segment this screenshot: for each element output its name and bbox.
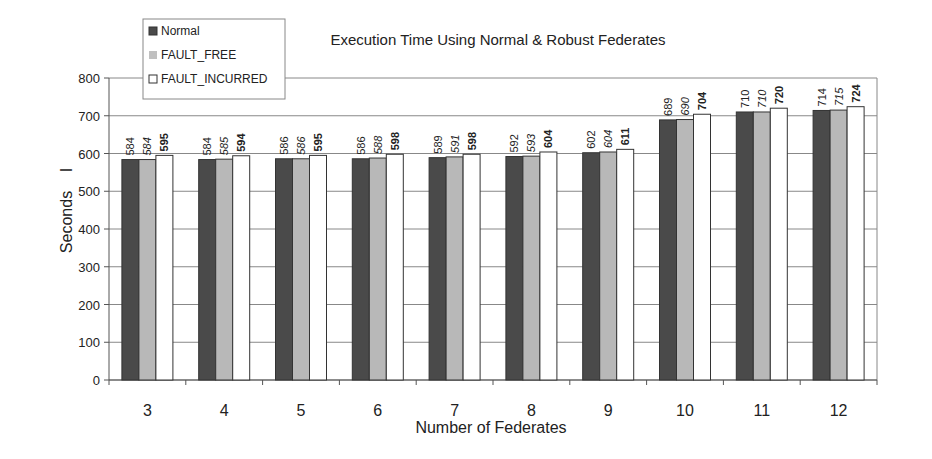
bar-fault-incurred xyxy=(233,156,250,380)
x-tick-label: 7 xyxy=(450,402,459,419)
value-label-fault-free: 584 xyxy=(141,137,153,155)
y-tick-label: 800 xyxy=(78,71,100,86)
bar-fault-free xyxy=(677,120,694,380)
white-square-icon xyxy=(149,75,157,83)
x-tick-label: 10 xyxy=(676,402,694,419)
value-label-fault-free: 710 xyxy=(756,89,768,108)
bar-chart: 5845845955845855945865865955865885985895… xyxy=(0,0,932,459)
bar-fault-free xyxy=(753,112,770,380)
bars xyxy=(122,107,864,380)
bar-fault-free xyxy=(830,110,847,380)
bar-normal xyxy=(199,160,216,380)
value-label-normal: 586 xyxy=(278,136,290,154)
x-axis-title: Number of Federates xyxy=(415,419,566,436)
chart-title: Execution Time Using Normal & Robust Fed… xyxy=(330,31,665,48)
y-tick-label: 100 xyxy=(78,335,100,350)
legend: NormalFAULT_FREEFAULT_INCURRED xyxy=(143,19,285,99)
y-tick-label: 700 xyxy=(78,109,100,124)
value-label-normal: 710 xyxy=(739,90,751,108)
value-label-fault-free: 593 xyxy=(525,133,537,152)
bar-fault-free xyxy=(216,159,233,380)
bar-normal xyxy=(583,153,600,380)
value-label-fault-incurred: 598 xyxy=(466,132,478,150)
bar-fault-incurred xyxy=(156,155,173,380)
value-label-fault-incurred: 604 xyxy=(542,129,554,148)
bar-fault-incurred xyxy=(540,152,557,380)
y-tick-label: 500 xyxy=(78,184,100,199)
value-label-normal: 602 xyxy=(585,130,597,148)
value-label-fault-free: 588 xyxy=(372,135,384,154)
bar-fault-incurred xyxy=(617,149,634,380)
bar-fault-incurred xyxy=(770,108,787,380)
bar-fault-incurred xyxy=(386,154,403,380)
legend-item-label: FAULT_INCURRED xyxy=(161,72,268,86)
value-label-normal: 584 xyxy=(124,137,136,155)
x-tick-labels: 3456789101112 xyxy=(143,402,848,419)
bar-normal xyxy=(276,159,293,380)
value-label-normal: 584 xyxy=(201,137,213,155)
legend-item-label: FAULT_FREE xyxy=(161,48,236,62)
value-label-fault-incurred: 595 xyxy=(158,133,170,151)
value-label-fault-free: 604 xyxy=(602,130,614,148)
bar-normal xyxy=(736,112,753,380)
y-tick-labels: 0100200300400500600700800 xyxy=(78,71,100,388)
x-tick-label: 3 xyxy=(143,402,152,419)
bar-normal xyxy=(122,160,139,380)
bar-fault-free xyxy=(446,157,463,380)
gray-square-icon xyxy=(149,51,157,59)
value-label-fault-incurred: 595 xyxy=(312,133,324,151)
bar-fault-free xyxy=(600,152,617,380)
y-axis-title-mark: I xyxy=(58,168,75,172)
bar-normal xyxy=(506,157,523,380)
x-tick-label: 12 xyxy=(830,402,848,419)
value-label-fault-incurred: 611 xyxy=(619,128,631,146)
value-label-normal: 589 xyxy=(432,135,444,153)
value-label-fault-free: 586 xyxy=(295,136,307,155)
x-tick-label: 9 xyxy=(604,402,613,419)
value-label-fault-free: 715 xyxy=(833,87,845,106)
x-tick-label: 11 xyxy=(753,402,770,419)
y-tick-label: 400 xyxy=(78,222,100,237)
bar-normal xyxy=(429,158,446,380)
x-tick-label: 6 xyxy=(373,402,382,419)
dark-square-icon xyxy=(149,27,157,35)
value-label-normal: 592 xyxy=(508,134,520,152)
value-label-fault-incurred: 704 xyxy=(696,91,708,110)
y-tick-label: 200 xyxy=(78,298,100,313)
value-label-fault-free: 585 xyxy=(218,136,230,155)
bar-fault-free xyxy=(369,158,386,380)
value-label-normal: 689 xyxy=(662,98,674,116)
bar-fault-incurred xyxy=(310,155,327,380)
bar-fault-incurred xyxy=(847,107,864,380)
value-label-normal: 714 xyxy=(816,88,828,106)
bar-fault-incurred xyxy=(694,114,711,380)
value-label-fault-free: 591 xyxy=(449,135,461,153)
x-tick-label: 4 xyxy=(220,402,229,419)
value-label-fault-incurred: 720 xyxy=(773,86,785,104)
bar-fault-free xyxy=(293,159,310,380)
bar-fault-incurred xyxy=(463,154,480,380)
x-tick-label: 8 xyxy=(527,402,536,419)
bar-normal xyxy=(352,159,369,380)
bar-normal xyxy=(813,110,830,380)
value-label-fault-incurred: 724 xyxy=(850,83,862,102)
value-label-fault-incurred: 594 xyxy=(235,133,247,152)
y-axis-title: Seconds xyxy=(58,191,75,253)
y-tick-label: 300 xyxy=(78,260,100,275)
bar-normal xyxy=(660,120,677,380)
value-label-fault-free: 690 xyxy=(679,96,691,115)
bar-fault-free xyxy=(139,160,156,380)
y-tick-label: 0 xyxy=(93,373,100,388)
value-label-normal: 586 xyxy=(355,136,367,154)
legend-item-label: Normal xyxy=(161,24,200,38)
y-tick-label: 600 xyxy=(78,147,100,162)
value-label-fault-incurred: 598 xyxy=(389,132,401,150)
x-tick-label: 5 xyxy=(297,402,306,419)
bar-fault-free xyxy=(523,156,540,380)
